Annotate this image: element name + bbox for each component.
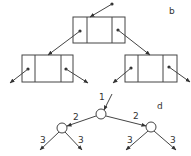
left-circle-node xyxy=(57,123,67,133)
panel-d xyxy=(40,94,176,150)
edge-label-left: 2 xyxy=(73,112,79,122)
edge-label-right: 2 xyxy=(133,111,139,121)
edge-label-root: 1 xyxy=(99,92,105,102)
root-circle-node xyxy=(96,109,106,119)
edge-label-leaf-1: 3 xyxy=(40,135,46,145)
panel-label-b: b xyxy=(169,6,175,16)
edge-label-leaf-3: 3 xyxy=(127,135,133,145)
edge-label-leaf-4: 3 xyxy=(170,135,176,145)
panel-label-d: d xyxy=(157,101,163,111)
right-circle-node xyxy=(146,122,156,132)
diagram-canvas: b 1 d 2 2 3 3 3 3 xyxy=(0,0,191,156)
panel-b xyxy=(10,2,190,83)
edge-label-leaf-2: 3 xyxy=(78,135,84,145)
